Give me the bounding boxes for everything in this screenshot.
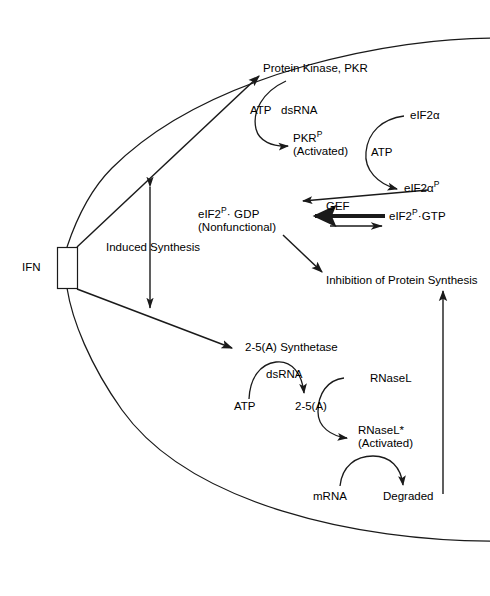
label-eif2-alpha-p-superscript: P: [434, 179, 440, 189]
label-mrna: mRNA: [313, 490, 347, 503]
interferon-pathway-diagram: IFN Induced Synthesis Protein Kinase, PK…: [0, 0, 490, 596]
label-eif2-p-gtp-post: ·GTP: [418, 210, 446, 222]
ifn-box: [58, 248, 78, 289]
label-2-5a-synthetase: 2-5(A) Synthetase: [245, 341, 338, 354]
label-eif2-p-gdp-post: · GDP: [227, 208, 260, 220]
cell-membrane-lower-arc: [67, 288, 490, 541]
arrow-ifn-to-synthetase: [77, 289, 232, 348]
label-inhibition-of-protein-synthesis: Inhibition of Protein Synthesis: [326, 274, 478, 287]
label-eif2-p-gdp-pre: eIF2: [198, 208, 221, 220]
label-eif2-p-gtp: eIF2P·GTP: [389, 210, 446, 223]
label-eif2-p-gdp-sub: (Nonfunctional): [198, 221, 276, 233]
label-gef: GEF: [326, 200, 350, 213]
label-dsrna-synthetase: dsRNA: [266, 368, 302, 381]
label-2-5a: 2-5(A): [295, 400, 327, 413]
label-rnasel-activated-sub: (Activated): [358, 437, 413, 449]
label-eif2-alpha-p-main: eIF2α: [404, 182, 434, 194]
label-dsrna-pkr: dsRNA: [281, 104, 317, 117]
arc-mrna-degradation: [340, 456, 403, 486]
diagram-canvas: [0, 0, 490, 596]
arrow-eif2gdp-to-inhibition: [283, 235, 322, 272]
label-protein-kinase-pkr: Protein Kinase, PKR: [263, 62, 368, 75]
label-atp-pkr: ATP: [250, 104, 272, 117]
label-ifn: IFN: [22, 261, 41, 274]
label-eif2-p-gdp: eIF2P· GDP (Nonfunctional): [198, 208, 276, 233]
label-induced-synthesis: Induced Synthesis: [106, 241, 200, 254]
label-eif2-p-gtp-pre: eIF2: [389, 210, 412, 222]
label-atp-synthetase: ATP: [234, 400, 256, 413]
label-eif2-alpha-phosphorylated: eIF2αP: [404, 182, 439, 195]
label-rnasel: RNaseL: [370, 372, 412, 385]
label-pkr-activated-main: PKR: [293, 132, 317, 144]
label-rnasel-activated: RNaseL* (Activated): [358, 424, 413, 449]
label-rnasel-activated-main: RNaseL*: [358, 424, 404, 436]
label-eif2-alpha: eIF2α: [410, 109, 440, 122]
label-degraded: Degraded: [383, 490, 434, 503]
label-pkr-activated-sub: (Activated): [293, 145, 348, 157]
label-atp-eif2: ATP: [371, 146, 393, 159]
label-pkr-activated: PKRP (Activated): [293, 132, 348, 157]
label-pkr-activated-superscript: P: [317, 129, 323, 139]
